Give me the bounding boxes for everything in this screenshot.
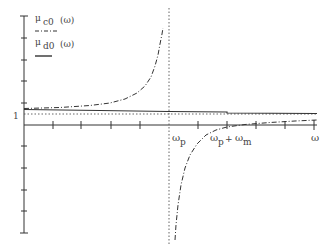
series-mu-d0 bbox=[24, 110, 317, 114]
legend-item-mu-c0: μ c0 (ω) bbox=[35, 13, 74, 31]
legend-mu-c0-sub: c0 bbox=[43, 17, 54, 27]
label-omega-p-sub: p bbox=[180, 137, 186, 147]
label-omega-pm-2: ω bbox=[235, 132, 243, 143]
label-omega-p: ω bbox=[172, 132, 180, 143]
label-omega-pm-1: ω bbox=[210, 132, 218, 143]
y-tick-label-one: 1 bbox=[13, 111, 19, 121]
x-axis bbox=[24, 120, 317, 130]
label-omega-pm-plus: + bbox=[225, 134, 233, 144]
legend-mu-c0-arg: (ω) bbox=[60, 15, 74, 25]
chart: μ c0 (ω) μ d0 (ω) 1 ω p ω p + ω m ω bbox=[0, 0, 333, 250]
label-omega-pm-1-sub: p bbox=[218, 137, 224, 147]
legend-item-mu-d0: μ d0 (ω) bbox=[35, 37, 74, 56]
legend-mu-d0-arg: (ω) bbox=[60, 39, 74, 49]
legend-mu-c0-symbol: μ bbox=[35, 13, 41, 23]
legend-mu-d0-symbol: μ bbox=[35, 37, 41, 47]
legend: μ c0 (ω) μ d0 (ω) bbox=[35, 13, 74, 56]
label-omega-pm-2-sub: m bbox=[243, 137, 252, 147]
x-axis-label: ω bbox=[311, 132, 319, 143]
legend-mu-d0-sub: d0 bbox=[43, 41, 55, 51]
